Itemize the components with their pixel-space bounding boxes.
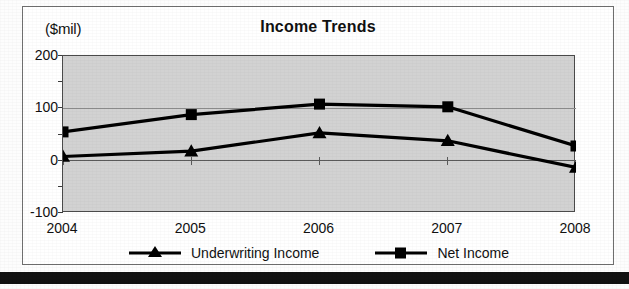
data-point-marker-square — [186, 109, 197, 120]
data-point-marker-square — [314, 99, 325, 110]
y-tick-label: -100 — [22, 204, 58, 220]
page-bottom-bar — [0, 272, 629, 284]
income-trends-chart: ($mil) Income Trends -1000100200 2004200… — [22, 6, 614, 265]
plot-svg — [63, 56, 576, 213]
legend-label: Net Income — [437, 245, 509, 261]
chart-title: Income Trends — [22, 18, 614, 36]
x-tick-label: 2006 — [303, 220, 334, 236]
legend-square-marker-icon — [373, 244, 429, 262]
y-tick-label: 200 — [22, 47, 58, 63]
plot-area — [62, 55, 575, 212]
x-tick-label: 2008 — [559, 220, 590, 236]
y-tick-label: 0 — [22, 152, 58, 168]
x-axis: 20042005200620072008 — [62, 212, 575, 242]
x-tick-label: 2005 — [175, 220, 206, 236]
legend-triangle-marker-icon — [127, 244, 183, 262]
legend-item[interactable]: Underwriting Income — [127, 244, 319, 262]
x-tick-label: 2004 — [46, 220, 77, 236]
data-point-marker-square — [571, 141, 577, 152]
legend-label: Underwriting Income — [191, 245, 319, 261]
data-point-marker-square — [442, 101, 453, 112]
x-tick-label: 2007 — [431, 220, 462, 236]
data-point-marker-square — [63, 126, 69, 137]
y-axis: -1000100200 — [22, 55, 58, 212]
chart-legend: Underwriting IncomeNet Income — [22, 242, 614, 264]
scanned-page: ($mil) Income Trends -1000100200 2004200… — [0, 0, 629, 289]
series-line — [63, 104, 576, 146]
y-tick-label: 100 — [22, 99, 58, 115]
legend-item[interactable]: Net Income — [373, 244, 509, 262]
